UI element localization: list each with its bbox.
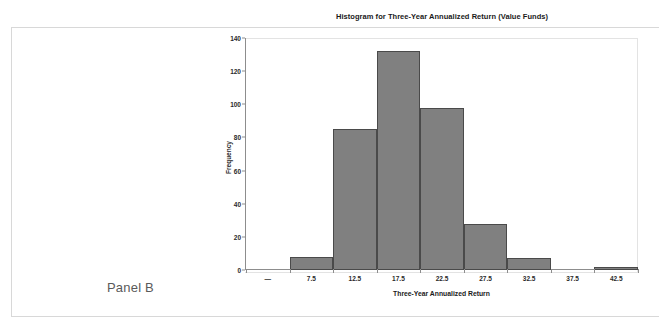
- x-tick-mark: [551, 269, 552, 273]
- y-tick-label: 40: [219, 200, 245, 207]
- y-tick-label: 120: [219, 68, 245, 75]
- x-tick-label: 12.5: [349, 275, 362, 282]
- histogram-bar: [464, 224, 508, 270]
- x-axis-title: Three-Year Annualized Return: [245, 290, 638, 297]
- x-tick-mark: [420, 269, 421, 273]
- x-tick-label: 42.5: [610, 275, 623, 282]
- x-tick-mark: [377, 269, 378, 273]
- y-tick-label: 60: [219, 167, 245, 174]
- y-tick-label: 0: [219, 267, 245, 274]
- histogram-bar: [333, 129, 377, 270]
- histogram-bar: [507, 258, 551, 270]
- y-tick-label: 100: [219, 101, 245, 108]
- y-tick-label: 80: [219, 134, 245, 141]
- x-tick-mark: [507, 269, 508, 273]
- histogram-bar: [377, 51, 421, 270]
- histogram-figure: Histogram for Three-Year Annualized Retu…: [245, 12, 639, 310]
- x-tick-label: 37.5: [566, 275, 579, 282]
- x-tick-mark: [333, 269, 334, 273]
- histogram-bar: [594, 267, 638, 270]
- x-tick-mark: [246, 269, 247, 273]
- x-tick-mark: [464, 269, 465, 273]
- histogram-bar: [290, 257, 334, 270]
- x-tick-label: —: [265, 275, 272, 282]
- x-tick-mark: [594, 269, 595, 273]
- x-tick-label: 32.5: [523, 275, 536, 282]
- y-tick-label: 140: [219, 35, 245, 42]
- panel-caption: Panel B: [107, 280, 154, 295]
- x-tick-label: 22.5: [436, 275, 449, 282]
- chart-title: Histogram for Three-Year Annualized Retu…: [245, 12, 639, 21]
- x-tick-mark: [638, 269, 639, 273]
- x-tick-label: 7.5: [307, 275, 316, 282]
- x-tick-mark: [290, 269, 291, 273]
- x-tick-label: 17.5: [392, 275, 405, 282]
- y-tick-label: 20: [219, 233, 245, 240]
- histogram-bar: [420, 108, 464, 270]
- bars-layer: [246, 38, 638, 270]
- x-tick-label: 27.5: [479, 275, 492, 282]
